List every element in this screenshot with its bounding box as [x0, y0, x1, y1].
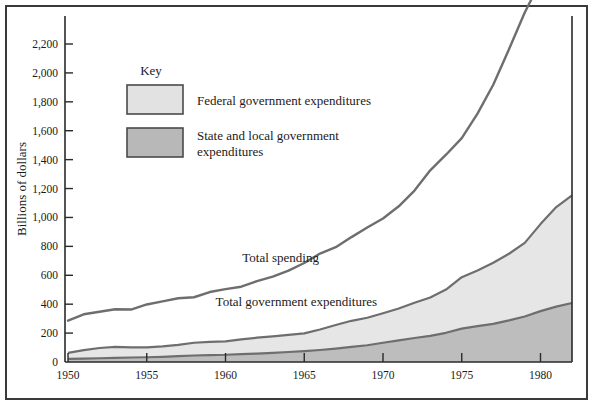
y-tick-label: 600: [41, 269, 59, 281]
legend-label: expenditures: [197, 144, 263, 159]
x-tick-label: 1975: [450, 369, 473, 381]
y-axis-title: Billions of dollars: [14, 142, 29, 236]
legend-title: Key: [140, 63, 162, 78]
y-tick-label: 2,000: [32, 67, 58, 80]
plot-annotations: Total spendingTotal government expenditu…: [216, 250, 378, 309]
x-tick-label: 1970: [372, 369, 395, 381]
y-tick-label: 1,400: [32, 154, 58, 167]
legend-label: Federal government expenditures: [197, 93, 371, 108]
x-tick-label: 1965: [293, 369, 316, 381]
chart-figure: 02004006008001,0001,2001,4001,6001,8002,…: [0, 0, 595, 407]
y-tick-label: 400: [41, 298, 59, 310]
x-tick-label: 1980: [529, 369, 552, 381]
legend-swatch: [127, 128, 183, 157]
y-tick-label: 800: [41, 240, 59, 252]
legend: KeyFederal government expendituresState …: [127, 63, 371, 159]
y-tick-label: 1,000: [32, 211, 58, 224]
series-annotation: Total spending: [242, 250, 319, 265]
legend-label: State and local government: [197, 128, 339, 143]
stacked-areas: [68, 195, 572, 362]
y-axis-ticks: 02004006008001,0001,2001,4001,6001,8002,…: [32, 38, 73, 368]
series-annotation: Total government expenditures: [216, 294, 378, 309]
x-tick-label: 1955: [135, 369, 158, 381]
y-tick-label: 200: [41, 327, 59, 339]
y-tick-label: 0: [52, 356, 58, 368]
y-tick-label: 1,200: [32, 183, 58, 196]
x-tick-label: 1950: [57, 369, 80, 381]
y-tick-label: 2,200: [32, 38, 58, 51]
y-tick-label: 1,800: [32, 96, 58, 109]
y-tick-label: 1,600: [32, 125, 58, 138]
x-tick-label: 1960: [214, 369, 237, 381]
chart-canvas: 02004006008001,0001,2001,4001,6001,8002,…: [0, 0, 595, 407]
legend-swatch: [127, 85, 183, 114]
